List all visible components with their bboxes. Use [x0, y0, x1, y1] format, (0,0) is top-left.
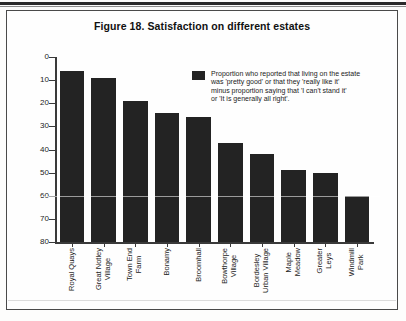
- x-axis-category-label-text: BowthorpeVillage: [222, 248, 239, 284]
- y-axis-tick: [49, 150, 55, 151]
- x-axis-category-label-text: BordesleyUrban Village: [253, 248, 270, 293]
- x-axis-category-label-line: Farm: [135, 248, 144, 281]
- figure-container: Figure 18. Satisfaction on different est…: [0, 0, 406, 321]
- x-axis-tick: [357, 243, 358, 247]
- bar: [155, 113, 180, 243]
- bar: [123, 101, 148, 242]
- y-axis-tick-label: 10: [7, 75, 49, 84]
- page-top-rule: [0, 2, 406, 5]
- x-axis-category-label: Great NotleyVillage: [88, 248, 120, 310]
- bar: [345, 196, 370, 242]
- legend-line: or 'It is generally all right'.: [211, 95, 360, 103]
- y-axis-tick-label: 70: [7, 214, 49, 223]
- y-axis-tick: [49, 103, 55, 104]
- bar: [60, 71, 85, 242]
- x-axis-tick: [230, 243, 231, 247]
- x-axis-category-label-line: Meadow: [294, 248, 303, 276]
- y-axis-tick-label: 50: [7, 168, 49, 177]
- x-axis-category-label-line: Royal Quays: [68, 248, 77, 291]
- x-axis-category-label-text: MapleMeadow: [285, 248, 302, 276]
- x-axis-category-label: WindmillPark: [341, 248, 373, 310]
- y-axis-tick-label: 80: [7, 237, 49, 246]
- x-axis-category-label-line: Bonamy: [163, 248, 172, 276]
- y-axis-tick-label: 20: [7, 98, 49, 107]
- y-axis-tick: [49, 80, 55, 81]
- y-axis-tick: [49, 242, 55, 243]
- x-axis-tick: [135, 243, 136, 247]
- x-axis-category-label-line: Leys: [325, 248, 334, 273]
- y-axis-tick-label: 40: [7, 145, 49, 154]
- figure-title: Figure 18. Satisfaction on different est…: [6, 20, 398, 32]
- x-axis-category-label: BowthorpeVillage: [215, 248, 247, 310]
- x-axis-tick: [167, 243, 168, 247]
- x-axis-category-label-text: Royal Quays: [68, 248, 77, 291]
- x-axis-tick: [72, 243, 73, 247]
- x-axis-labels: Royal QuaysGreat NotleyVillageTown EndFa…: [56, 248, 373, 310]
- y-axis-tick: [49, 126, 55, 127]
- y-axis-tick-label: 0: [7, 52, 49, 61]
- x-axis-category-label: BordesleyUrban Village: [246, 248, 278, 310]
- y-axis-tick: [49, 57, 55, 58]
- x-axis-category-label: Broomhall: [183, 248, 215, 310]
- x-axis-category-label-line: Great Notley: [95, 248, 104, 290]
- chart-legend: Proportion who reported that living on t…: [192, 70, 360, 104]
- x-axis-category-label-text: WindmillPark: [349, 248, 366, 276]
- bar: [186, 117, 211, 242]
- legend-swatch-icon: [192, 71, 205, 80]
- x-axis-category-label-line: Park: [357, 248, 366, 276]
- page-top-rule-secondary: [0, 6, 406, 7]
- bar: [281, 170, 306, 242]
- bar: [91, 78, 116, 242]
- x-axis-category-label-text: Great NotleyVillage: [95, 248, 112, 290]
- x-axis-category-label: Town EndFarm: [119, 248, 151, 310]
- x-axis-category-label-line: Village: [104, 248, 113, 290]
- x-axis-tick: [104, 243, 105, 247]
- legend-line: was 'pretty good' or that they 'really l…: [211, 78, 360, 86]
- x-axis-tick: [199, 243, 200, 247]
- x-axis-category-label-text: Bonamy: [163, 248, 172, 276]
- x-axis-category-label-line: Urban Village: [262, 248, 271, 293]
- legend-line: Proportion who reported that living on t…: [211, 70, 360, 78]
- y-axis-tick-label: 30: [7, 121, 49, 130]
- x-axis-category-label: Royal Quays: [56, 248, 88, 310]
- x-axis-category-label-text: GreaterLeys: [317, 248, 334, 273]
- x-axis-category-label-line: Broomhall: [194, 248, 203, 282]
- x-axis-category-label: MapleMeadow: [278, 248, 310, 310]
- bar: [313, 173, 338, 242]
- bar: [218, 143, 243, 242]
- x-axis-category-label-text: Town EndFarm: [127, 248, 144, 281]
- x-axis-category-label-text: Broomhall: [194, 248, 203, 282]
- x-axis-category-label-line: Village: [230, 248, 239, 284]
- legend-line: minus proportion saying that 'I can't st…: [211, 87, 360, 95]
- y-axis-tick: [49, 173, 55, 174]
- x-axis-tick: [325, 243, 326, 247]
- x-axis-tick: [294, 243, 295, 247]
- x-axis-category-label: GreaterLeys: [310, 248, 342, 310]
- y-axis-tick: [49, 219, 55, 220]
- bar: [250, 154, 275, 242]
- y-axis-tick-label: 60: [7, 191, 49, 200]
- y-axis-tick: [49, 196, 55, 197]
- x-axis-tick: [262, 243, 263, 247]
- x-axis-category-label: Bonamy: [151, 248, 183, 310]
- legend-label: Proportion who reported that living on t…: [211, 70, 360, 104]
